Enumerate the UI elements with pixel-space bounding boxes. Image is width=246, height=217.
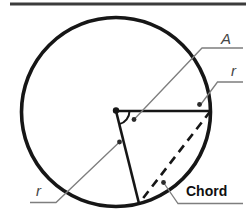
angle-label-leader [134, 48, 243, 120]
radius-lower-line [116, 111, 139, 204]
angle-arc [119, 111, 129, 124]
circle-diagram-canvas: A r r Chord [0, 0, 246, 217]
angle-label: A [220, 30, 231, 47]
circle-diagram: A r r Chord [0, 0, 246, 217]
angle-label-dot [132, 117, 137, 122]
radius-left-label: r [36, 182, 42, 199]
radius-right-label: r [231, 62, 237, 79]
chord-label-dot [161, 180, 166, 185]
center-dot [113, 107, 119, 113]
radius-left-label-dot [117, 140, 122, 145]
radius-right-label-dot [197, 102, 202, 107]
chord-label: Chord [186, 183, 227, 199]
